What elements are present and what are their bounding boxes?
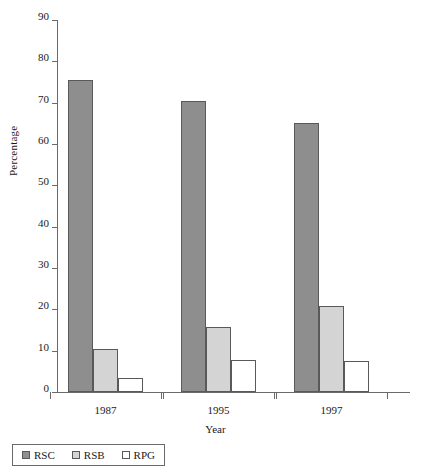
legend-item-rsc[interactable]: RSC xyxy=(22,449,55,461)
legend-item-rpg[interactable]: RPG xyxy=(122,449,155,461)
x-axis-category-1997: 1997 xyxy=(302,404,362,416)
bar-rsb-1987 xyxy=(93,349,118,392)
legend-item-rsb[interactable]: RSB xyxy=(72,449,105,461)
y-axis-tick-label: 10 xyxy=(38,342,49,353)
y-axis-tick-label: 30 xyxy=(38,259,49,270)
y-axis-tick-mark xyxy=(52,392,57,393)
y-axis-tick: 50 xyxy=(0,185,57,186)
x-axis-tick-mark xyxy=(276,392,277,399)
y-axis-tick-label: 20 xyxy=(38,300,49,311)
y-axis-tick: 20 xyxy=(0,309,57,310)
legend-swatch-icon xyxy=(22,451,30,459)
bar-rpg-1997 xyxy=(344,361,369,392)
y-axis-tick: 70 xyxy=(0,103,57,104)
x-axis-line xyxy=(57,392,410,393)
x-axis-title: Year xyxy=(0,423,431,435)
y-axis-tick-label: 90 xyxy=(38,11,49,22)
x-axis-tick-mark xyxy=(163,392,164,399)
bar-rsc-1995 xyxy=(181,101,206,392)
bar-rsc-1987 xyxy=(68,80,93,392)
chart-legend: RSCRSBRPG xyxy=(12,444,165,466)
y-axis-tick: 40 xyxy=(0,227,57,228)
y-axis-tick: 90 xyxy=(0,20,57,21)
bar-rsb-1997 xyxy=(319,306,344,392)
y-axis-tick: 0 xyxy=(0,392,57,393)
y-axis-tick-label: 80 xyxy=(38,52,49,63)
legend-label: RPG xyxy=(134,449,155,461)
y-axis-tick: 60 xyxy=(0,144,57,145)
legend-swatch-icon xyxy=(72,451,80,459)
y-axis-tick-label: 50 xyxy=(38,176,49,187)
bar-rsc-1997 xyxy=(294,123,319,392)
bar-rpg-1987 xyxy=(118,378,143,392)
x-axis-tick-mark xyxy=(387,392,388,399)
x-axis-tick-mark xyxy=(161,392,162,399)
y-axis-tick: 10 xyxy=(0,351,57,352)
x-axis-tick-mark xyxy=(274,392,275,399)
legend-label: RSC xyxy=(34,449,55,461)
bar-chart: Percentage 0102030405060708090 198719951… xyxy=(0,0,431,475)
y-axis-tick-label: 40 xyxy=(38,218,49,229)
y-axis-title: Percentage xyxy=(8,126,19,176)
legend-label: RSB xyxy=(84,449,105,461)
y-axis-tick: 30 xyxy=(0,268,57,269)
x-axis-tick-mark xyxy=(50,392,51,399)
bar-rsb-1995 xyxy=(206,327,231,392)
y-axis-tick-label: 70 xyxy=(38,94,49,105)
bar-rpg-1995 xyxy=(231,360,256,392)
x-axis-category-1987: 1987 xyxy=(76,404,136,416)
y-axis-tick: 80 xyxy=(0,61,57,62)
y-axis-tick-label: 0 xyxy=(44,383,50,394)
x-axis-category-1995: 1995 xyxy=(189,404,249,416)
bars-layer xyxy=(57,20,409,392)
y-axis-tick-label: 60 xyxy=(38,135,49,146)
legend-swatch-icon xyxy=(122,451,130,459)
